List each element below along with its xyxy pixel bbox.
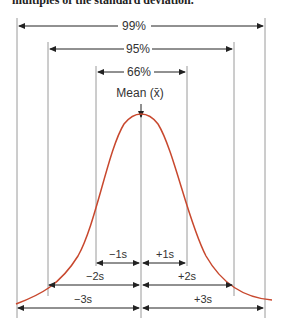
label-minus-1s: −1s [109,248,128,260]
normal-distribution-diagram: 99% 95% 66% Mean (x̄) −1s +1s −2s +2s −3… [0,0,285,327]
mean-label: Mean (x̄) [116,86,163,100]
label-plus-3s: +3s [194,293,213,305]
label-66-percent: 66% [127,65,151,79]
label-95-percent: 95% [126,42,150,56]
label-minus-2s: −2s [86,270,105,282]
label-99-percent: 99% [122,19,146,33]
label-minus-3s: −3s [74,293,93,305]
label-plus-2s: +2s [178,270,197,282]
label-plus-1s: +1s [156,248,175,260]
sd-guide-lines [17,18,265,318]
